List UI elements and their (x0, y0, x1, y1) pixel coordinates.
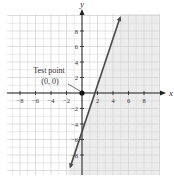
annotation-point: (0, 0) (41, 77, 59, 86)
svg-text:8: 8 (142, 97, 145, 104)
svg-text:−2: −2 (71, 105, 78, 112)
svg-text:−8: −8 (17, 97, 24, 104)
svg-text:−6: −6 (71, 136, 79, 143)
svg-text:2: 2 (96, 97, 99, 104)
annotation-title: Test point (33, 66, 65, 75)
x-axis-label: x (168, 88, 173, 98)
y-axis-label: y (79, 0, 84, 9)
svg-text:−4: −4 (48, 97, 56, 104)
svg-text:−6: −6 (32, 97, 40, 104)
svg-text:−4: −4 (71, 121, 79, 128)
svg-text:8: 8 (75, 28, 78, 35)
svg-text:2: 2 (75, 74, 78, 81)
svg-text:−2: −2 (63, 97, 70, 104)
graph: xy −8−6−4−224688642−2−4−6−8 Test point(0… (0, 0, 174, 182)
